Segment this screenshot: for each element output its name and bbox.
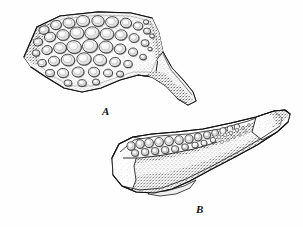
tooth-highlight [129,143,131,145]
tooth-highlight [79,81,82,83]
tooth [116,71,124,78]
tooth [192,142,199,149]
figure-illustration-root: A B [0,0,303,227]
tooth-highlight [79,18,83,21]
figure-label-b: B [196,204,204,215]
specimen-illustration-svg [0,0,303,227]
tooth-highlight [66,81,68,83]
tooth-crown [210,137,216,142]
tooth [201,140,208,147]
tooth-highlight [131,35,134,37]
tooth-highlight [143,41,145,43]
tooth-highlight [130,50,133,52]
tooth-highlight [137,141,140,143]
tooth [141,148,149,156]
tooth [32,50,40,57]
tooth [161,146,169,154]
tooth [141,40,150,48]
tooth-highlight [135,24,138,26]
tooth [182,144,190,151]
tooth [151,147,159,155]
tooth-crown [150,34,155,38]
tooth-highlight [56,45,60,48]
tooth-highlight [213,131,215,133]
tooth-highlight [94,80,96,82]
tooth-crown [76,15,89,26]
tooth-highlight [176,137,179,139]
tooth-highlight [34,51,36,53]
tooth [171,146,179,154]
tooth [140,54,148,61]
tooth-highlight [118,72,120,74]
tooth [131,150,139,158]
tooth-highlight [235,125,237,127]
tooth-highlight [187,136,189,138]
tooth-highlight [211,138,213,139]
tooth-highlight [144,21,146,22]
tooth-highlight [173,147,175,149]
tooth [92,79,100,86]
tooth-crown [201,140,207,146]
tooth-highlight [153,149,155,151]
tooth-crown [192,142,198,148]
tooth-highlight [193,143,195,145]
tooth-highlight [163,148,165,150]
tooth-highlight [145,29,147,31]
tooth-highlight [196,135,198,137]
tooth-highlight [51,58,54,61]
tooth-highlight [133,151,135,153]
tooth-highlight [143,150,145,152]
tooth [143,28,151,35]
tooth [203,131,211,140]
tooth-highlight [151,35,152,36]
tooth-highlight [125,62,128,64]
tooth-highlight [59,32,63,35]
tooth-highlight [146,140,149,143]
tooth-highlight [47,71,50,73]
tooth-highlight [141,55,143,57]
tooth [64,80,73,87]
tooth-highlight [221,129,223,131]
tooth-crown [143,20,148,24]
tooth-highlight [228,127,230,129]
tooth-highlight [149,48,150,49]
tooth-highlight [205,133,207,135]
tooth-crown [148,47,152,51]
figure-label-a: A [102,106,110,117]
tooth-highlight [156,139,159,142]
tooth-highlight [105,71,108,73]
tooth-highlight [183,145,185,147]
tooth-highlight [202,141,204,143]
tooth-highlight [166,138,169,141]
